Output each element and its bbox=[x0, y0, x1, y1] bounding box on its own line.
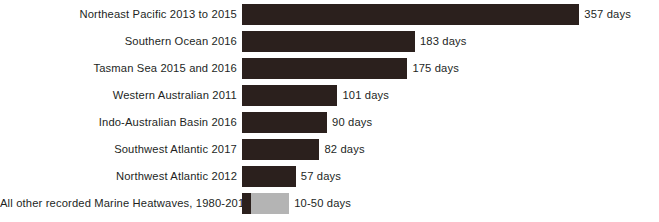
bar-segment-dark bbox=[242, 85, 337, 106]
bar-category-label: Tasman Sea 2015 and 2016 bbox=[0, 62, 242, 75]
bar-category-label: Western Australian 2011 bbox=[0, 89, 242, 102]
chart-row: Tasman Sea 2015 and 2016175 days bbox=[0, 58, 659, 79]
chart-row: Indo-Australian Basin 201690 days bbox=[0, 112, 659, 133]
bar-value-label: 175 days bbox=[412, 62, 459, 75]
bar-value-label: 90 days bbox=[332, 116, 372, 129]
bar-category-label: Northwest Atlantic 2012 bbox=[0, 170, 242, 183]
bar bbox=[242, 85, 337, 106]
bar bbox=[242, 4, 579, 25]
chart-row: Western Australian 2011101 days bbox=[0, 85, 659, 106]
bar-area: 175 days bbox=[242, 58, 659, 79]
bar-area: 101 days bbox=[242, 85, 659, 106]
bar bbox=[242, 112, 327, 133]
bar-category-label: Southwest Atlantic 2017 bbox=[0, 143, 242, 156]
bar-area: 10-50 days bbox=[242, 193, 659, 214]
bar-category-label: Northeast Pacific 2013 to 2015 bbox=[0, 8, 242, 21]
bar-area: 90 days bbox=[242, 112, 659, 133]
bar-value-label: 82 days bbox=[324, 143, 364, 156]
bar-value-label: 10-50 days bbox=[294, 197, 351, 210]
bar-area: 82 days bbox=[242, 139, 659, 160]
bar-category-label: All other recorded Marine Heatwaves, 198… bbox=[0, 197, 242, 210]
bar bbox=[242, 139, 319, 160]
bar bbox=[242, 31, 415, 52]
chart-row: Northeast Pacific 2013 to 2015357 days bbox=[0, 4, 659, 25]
bar-area: 57 days bbox=[242, 166, 659, 187]
bar-segment-dark bbox=[242, 31, 415, 52]
bar-segment-dark bbox=[242, 166, 296, 187]
bar-category-label: Indo-Australian Basin 2016 bbox=[0, 116, 242, 129]
bar-segment-light bbox=[251, 193, 289, 214]
bar-value-label: 183 days bbox=[420, 35, 467, 48]
bar-segment-dark bbox=[242, 58, 407, 79]
bar-value-label: 357 days bbox=[584, 8, 631, 21]
bar-value-label: 101 days bbox=[342, 89, 389, 102]
bar-segment-dark bbox=[242, 4, 579, 25]
bar-segment-dark bbox=[242, 139, 319, 160]
bar bbox=[242, 166, 296, 187]
bar-segment-dark bbox=[242, 112, 327, 133]
chart-rows: Northeast Pacific 2013 to 2015357 daysSo… bbox=[0, 0, 659, 222]
bar-value-label: 57 days bbox=[301, 170, 341, 183]
bar bbox=[242, 58, 407, 79]
bar-category-label: Southern Ocean 2016 bbox=[0, 35, 242, 48]
bar-area: 183 days bbox=[242, 31, 659, 52]
marine-heatwave-duration-chart: Northeast Pacific 2013 to 2015357 daysSo… bbox=[0, 0, 659, 222]
bar-segment-dark bbox=[242, 193, 251, 214]
chart-row: Southwest Atlantic 201782 days bbox=[0, 139, 659, 160]
chart-row: Northwest Atlantic 201257 days bbox=[0, 166, 659, 187]
chart-row: Southern Ocean 2016183 days bbox=[0, 31, 659, 52]
chart-row: All other recorded Marine Heatwaves, 198… bbox=[0, 193, 659, 214]
bar-area: 357 days bbox=[242, 4, 659, 25]
bar bbox=[242, 193, 289, 214]
